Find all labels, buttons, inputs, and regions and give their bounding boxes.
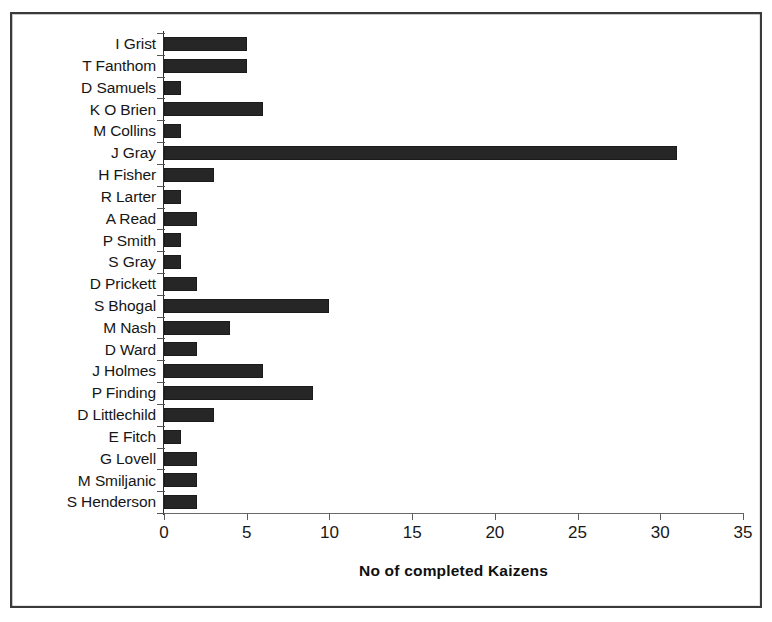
horizontal-bar-chart: I GristT FanthomD SamuelsK O BrienM Coll… — [0, 0, 772, 622]
category-label: R Larter — [101, 186, 156, 208]
bar-row — [164, 77, 743, 99]
value-tick-label: 20 — [485, 524, 504, 541]
category-label: D Samuels — [81, 77, 156, 99]
bar[interactable] — [164, 190, 181, 204]
category-tick — [157, 317, 165, 318]
category-tick — [157, 360, 165, 361]
bar-row — [164, 33, 743, 55]
chart-page: I GristT FanthomD SamuelsK O BrienM Coll… — [0, 0, 772, 622]
bar[interactable] — [164, 408, 214, 422]
bar[interactable] — [164, 342, 197, 356]
bar[interactable] — [164, 59, 247, 73]
category-label: T Fanthom — [82, 55, 156, 77]
category-label: J Holmes — [92, 360, 156, 382]
category-label: A Read — [106, 208, 156, 230]
value-tick — [247, 513, 248, 520]
category-tick — [157, 251, 165, 252]
category-label: D Ward — [105, 338, 156, 360]
category-tick — [157, 98, 165, 99]
bar-row — [164, 338, 743, 360]
bar-row — [164, 404, 743, 426]
bar-row — [164, 208, 743, 230]
category-tick — [157, 229, 165, 230]
bar-row — [164, 360, 743, 382]
bar[interactable] — [164, 168, 214, 182]
category-tick — [157, 469, 165, 470]
bar-row — [164, 55, 743, 77]
value-tick — [495, 513, 496, 520]
bar-row — [164, 186, 743, 208]
category-label: P Finding — [92, 382, 156, 404]
value-tick — [578, 513, 579, 520]
bar-row — [164, 273, 743, 295]
category-tick — [157, 273, 165, 274]
category-tick — [157, 491, 165, 492]
category-tick — [157, 77, 165, 78]
category-label: M Smiljanic — [78, 469, 156, 491]
category-label: M Nash — [103, 317, 156, 339]
category-label: S Bhogal — [94, 295, 156, 317]
category-tick — [157, 426, 165, 427]
value-tick — [329, 513, 330, 520]
bar-row — [164, 448, 743, 470]
bar[interactable] — [164, 277, 197, 291]
category-tick — [157, 382, 165, 383]
bar[interactable] — [164, 233, 181, 247]
value-tick-label: 15 — [403, 524, 422, 541]
category-tick — [157, 208, 165, 209]
bar[interactable] — [164, 124, 181, 138]
category-label: D Prickett — [90, 273, 156, 295]
bar-row — [164, 426, 743, 448]
category-label: H Fisher — [98, 164, 156, 186]
category-tick — [157, 55, 165, 56]
bar[interactable] — [164, 37, 247, 51]
category-label: S Henderson — [67, 491, 156, 513]
bar[interactable] — [164, 212, 197, 226]
bar[interactable] — [164, 364, 263, 378]
category-tick — [157, 120, 165, 121]
bar[interactable] — [164, 495, 197, 509]
category-label: D Littlechild — [77, 404, 156, 426]
value-tick — [660, 513, 661, 520]
bar-row — [164, 469, 743, 491]
bar[interactable] — [164, 386, 313, 400]
category-label: S Gray — [108, 251, 156, 273]
bar[interactable] — [164, 430, 181, 444]
bar-row — [164, 317, 743, 339]
bar[interactable] — [164, 321, 230, 335]
value-tick-label: 10 — [320, 524, 339, 541]
bar[interactable] — [164, 473, 197, 487]
bar-row — [164, 164, 743, 186]
value-tick — [412, 513, 413, 520]
value-tick — [164, 513, 165, 520]
value-tick-label: 35 — [734, 524, 753, 541]
plot-area — [164, 33, 743, 513]
bar[interactable] — [164, 146, 677, 160]
category-label: I Grist — [115, 33, 156, 55]
bar-row — [164, 120, 743, 142]
bar-row — [164, 491, 743, 513]
category-label: E Fitch — [108, 426, 156, 448]
bar[interactable] — [164, 81, 181, 95]
category-tick — [157, 164, 165, 165]
category-label: G Lovell — [100, 448, 156, 470]
bar[interactable] — [164, 452, 197, 466]
category-tick — [157, 338, 165, 339]
category-label: P Smith — [103, 229, 156, 251]
bar-row — [164, 98, 743, 120]
bar[interactable] — [164, 255, 181, 269]
bar[interactable] — [164, 299, 329, 313]
category-tick — [157, 448, 165, 449]
value-tick — [743, 513, 744, 520]
bar-row — [164, 382, 743, 404]
bar-row — [164, 229, 743, 251]
value-tick-label: 25 — [568, 524, 587, 541]
category-label: J Gray — [111, 142, 156, 164]
category-tick — [157, 186, 165, 187]
bar[interactable] — [164, 102, 263, 116]
bar-row — [164, 251, 743, 273]
category-tick — [157, 142, 165, 143]
category-tick — [157, 33, 165, 34]
x-axis-title: No of completed Kaizens — [164, 562, 743, 580]
category-tick — [157, 404, 165, 405]
